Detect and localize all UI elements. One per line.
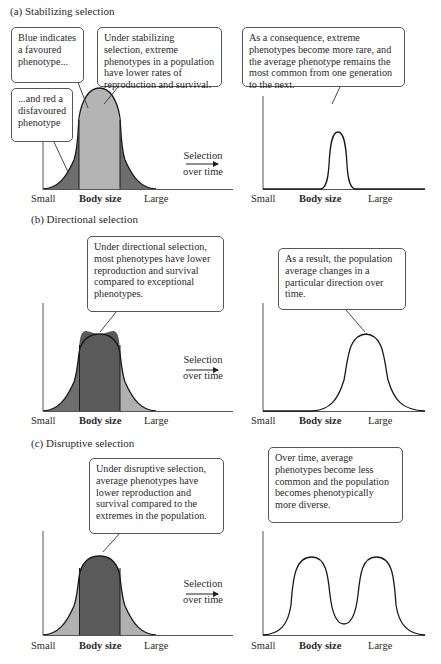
- axis-small-a1: Small: [31, 193, 56, 204]
- selection-label-line1: Selection: [183, 576, 223, 592]
- chart-b-after: [263, 303, 425, 412]
- selection-label-c: Selection over time: [183, 576, 223, 608]
- axis-bodysize-b1: Body size: [79, 415, 121, 426]
- axis-small-a2: Small: [251, 193, 276, 204]
- axis-small-c2: Small: [251, 640, 276, 651]
- callout-c-right: Over time, average phenotypes become les…: [268, 447, 403, 523]
- axis-bodysize-b2: Body size: [299, 415, 341, 426]
- axis-large-a1: Large: [144, 193, 168, 204]
- axis-bodysize-c1: Body size: [79, 640, 121, 651]
- pointer-c-left: [103, 533, 120, 552]
- callout-a-left: Under stabilizing selection, extreme phe…: [97, 27, 222, 87]
- pointer-a-right: [332, 87, 340, 104]
- axis-small-c1: Small: [31, 640, 56, 651]
- callout-blue-favoured: Blue indicates a favoured phenotype...: [11, 27, 84, 83]
- section-title-a: (a) Stabilizing selection: [10, 5, 114, 17]
- section-title-b: (b) Directional selection: [31, 213, 138, 225]
- axis-large-a2: Large: [368, 193, 392, 204]
- selection-label-b: Selection over time: [183, 352, 223, 384]
- callout-b-left: Under directional selection, most phenot…: [87, 236, 224, 312]
- chart-a-after: [263, 96, 425, 190]
- callout-b-right: As a result, the population average chan…: [278, 248, 406, 310]
- axis-small-b2: Small: [251, 415, 276, 426]
- selection-label-line2: over time: [183, 368, 223, 384]
- axis-large-b1: Large: [144, 415, 168, 426]
- selection-label-line1: Selection: [183, 148, 223, 164]
- selection-label-a: Selection over time: [183, 148, 223, 180]
- selection-label-line2: over time: [183, 592, 223, 608]
- chart-c-after: [263, 531, 425, 636]
- axis-large-c2: Large: [368, 640, 392, 651]
- axis-bodysize-c2: Body size: [299, 640, 341, 651]
- axis-large-c1: Large: [144, 640, 168, 651]
- callout-a-right: As a consequence, extreme phenotypes bec…: [242, 27, 405, 87]
- section-title-c: (c) Disruptive selection: [31, 437, 134, 449]
- pointer-red: [54, 142, 68, 172]
- pointer-b-right: [346, 310, 365, 332]
- selection-label-line2: over time: [183, 164, 223, 180]
- axis-bodysize-a1: Body size: [79, 193, 121, 204]
- callout-c-left: Under disruptive selection, average phen…: [89, 458, 224, 534]
- axis-large-b2: Large: [368, 415, 392, 426]
- selection-label-line1: Selection: [183, 352, 223, 368]
- callout-red-disfavoured: ...and red a disfavoured phenotype: [11, 88, 73, 142]
- pointer-b-left: [100, 311, 117, 332]
- axis-small-b1: Small: [31, 415, 56, 426]
- axis-bodysize-a2: Body size: [299, 193, 341, 204]
